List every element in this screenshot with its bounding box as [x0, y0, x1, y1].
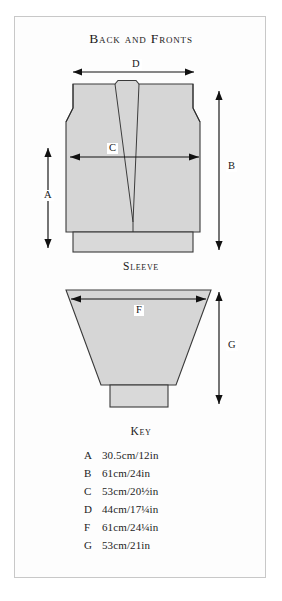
key-value: 53cm/21in — [102, 539, 198, 551]
key-value: 61cm/24in — [102, 467, 198, 479]
dimension-label-g: G — [226, 340, 238, 351]
pattern-diagram-page: Back and Fronts — [0, 0, 282, 601]
key-value: 44cm/17¼in — [102, 503, 198, 515]
key-value: 61cm/24¼in — [102, 521, 198, 533]
key-row: B 61cm/24in — [0, 467, 282, 485]
key-row: F 61cm/24¼in — [0, 521, 282, 539]
key-row: C 53cm/20½in — [0, 485, 282, 503]
key-letter: C — [84, 485, 102, 497]
key-value: 53cm/20½in — [102, 485, 198, 497]
section-title-sleeve: Sleeve — [0, 260, 282, 272]
key-letter: B — [84, 467, 102, 479]
section-title-key: Key — [0, 425, 282, 437]
key-letter: F — [84, 521, 102, 533]
key-row: A 30.5cm/12in — [0, 449, 282, 467]
dimension-label-d: D — [130, 59, 142, 70]
section-title-back-and-fronts: Back and Fronts — [0, 31, 282, 47]
key-value: 30.5cm/12in — [102, 449, 198, 461]
key-letter: G — [84, 539, 102, 551]
key-letter: D — [84, 503, 102, 515]
dimension-label-f: F — [134, 305, 144, 316]
dimension-label-c: C — [107, 143, 118, 154]
dimension-label-b: B — [226, 161, 237, 172]
key-letter: A — [84, 449, 102, 461]
key-row: G 53cm/21in — [0, 539, 282, 557]
key-list: A 30.5cm/12in B 61cm/24in C 53cm/20½in D… — [0, 449, 282, 557]
dimension-label-a: A — [42, 190, 54, 201]
key-row: D 44cm/17¼in — [0, 503, 282, 521]
